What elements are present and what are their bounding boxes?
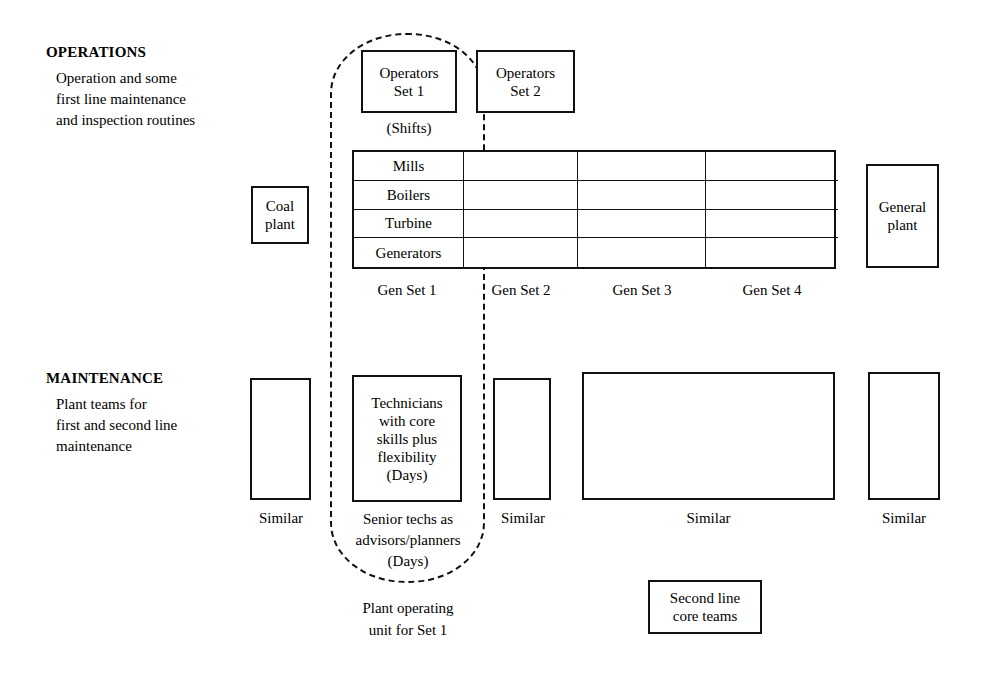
- gen-matrix-cell-r1-c2[interactable]: [464, 152, 578, 181]
- senior-techs-line-1: Senior techs as: [328, 509, 488, 530]
- technicians-line-2: with core: [371, 412, 442, 430]
- gen-matrix-cell-r3-c3[interactable]: [578, 210, 706, 239]
- second-line-core-teams-line-2: core teams: [670, 607, 740, 625]
- technicians-line-4: flexibility: [371, 448, 442, 466]
- plant-operating-unit-line-2: unit for Set 1: [333, 619, 483, 641]
- operations-desc-line-2: first line maintenance: [56, 89, 195, 110]
- maintenance-team-box-2[interactable]: [493, 378, 551, 500]
- operators-set-1-line-1: Operators: [379, 64, 438, 82]
- operators-set-2-line-2: Set 2: [496, 82, 555, 100]
- gen-matrix-cell-r3-c4[interactable]: [706, 210, 838, 239]
- coal-plant-line-1: Coal: [265, 197, 295, 215]
- technicians-box[interactable]: Technicians with core skills plus flexib…: [352, 375, 462, 502]
- gen-matrix-cell-r4-c2[interactable]: [464, 238, 578, 267]
- second-line-core-teams-line-1: Second line: [670, 589, 740, 607]
- operations-desc-line-1: Operation and some: [56, 68, 195, 89]
- senior-techs-caption: Senior techs as advisors/planners (Days): [328, 509, 488, 572]
- operators-set-1-line-2: Set 1: [379, 82, 438, 100]
- plant-operating-unit-line-1: Plant operating: [333, 597, 483, 619]
- gen-matrix-cell-r4-c4[interactable]: [706, 238, 838, 267]
- operations-desc-line-3: and inspection routines: [56, 110, 195, 131]
- maintenance-team-box-4[interactable]: [868, 372, 940, 500]
- maintenance-desc-line-1: Plant teams for: [56, 394, 177, 415]
- maintenance-desc-line-2: first and second line: [56, 415, 177, 436]
- gen-set-4-label: Gen Set 4: [706, 280, 838, 300]
- second-line-core-teams-box[interactable]: Second line core teams: [648, 580, 762, 634]
- gen-set-1-label: Gen Set 1: [352, 280, 462, 300]
- general-plant-line-2: plant: [879, 216, 926, 234]
- general-plant-box[interactable]: General plant: [866, 164, 939, 268]
- technicians-line-1: Technicians: [371, 394, 442, 412]
- diagram-canvas: OPERATIONS Operation and some first line…: [0, 0, 985, 675]
- gen-matrix-cell-r1-c3[interactable]: [578, 152, 706, 181]
- general-plant-line-1: General: [879, 198, 926, 216]
- gen-matrix-cell-r2-c4[interactable]: [706, 181, 838, 210]
- gen-set-3-label: Gen Set 3: [578, 280, 706, 300]
- gen-set-2-label: Gen Set 2: [464, 280, 578, 300]
- gen-matrix-row-label-3[interactable]: Turbine: [354, 210, 464, 239]
- maintenance-similar-label-3: Similar: [582, 508, 835, 528]
- coal-plant-line-2: plant: [265, 215, 295, 233]
- senior-techs-line-3: (Days): [328, 551, 488, 572]
- maintenance-team-box-1[interactable]: [250, 378, 311, 500]
- senior-techs-line-2: advisors/planners: [328, 530, 488, 551]
- maintenance-section-description: Plant teams for first and second line ma…: [56, 394, 177, 457]
- maintenance-similar-label-1: Similar: [240, 508, 322, 528]
- gen-set-matrix: MillsBoilersTurbineGenerators: [352, 150, 836, 269]
- technicians-line-5: (Days): [371, 466, 442, 484]
- gen-matrix-cell-r3-c2[interactable]: [464, 210, 578, 239]
- shifts-caption: (Shifts): [361, 118, 457, 138]
- maintenance-team-box-3[interactable]: [582, 372, 835, 500]
- maintenance-similar-label-2: Similar: [482, 508, 564, 528]
- maintenance-section-heading: MAINTENANCE: [46, 370, 163, 387]
- operations-section-description: Operation and some first line maintenanc…: [56, 68, 195, 131]
- maintenance-similar-label-4: Similar: [868, 508, 940, 528]
- gen-matrix-cell-r4-c3[interactable]: [578, 238, 706, 267]
- maintenance-desc-line-3: maintenance: [56, 436, 177, 457]
- technicians-line-3: skills plus: [371, 430, 442, 448]
- gen-matrix-cell-r2-c3[interactable]: [578, 181, 706, 210]
- gen-matrix-row-label-2[interactable]: Boilers: [354, 181, 464, 210]
- coal-plant-box[interactable]: Coal plant: [251, 186, 309, 244]
- gen-matrix-cell-r1-c4[interactable]: [706, 152, 838, 181]
- operators-set-2-line-1: Operators: [496, 64, 555, 82]
- operators-set-1-box[interactable]: Operators Set 1: [361, 50, 457, 113]
- plant-operating-unit-caption: Plant operating unit for Set 1: [333, 597, 483, 641]
- operations-section-heading: OPERATIONS: [46, 44, 146, 61]
- operators-set-2-box[interactable]: Operators Set 2: [476, 50, 575, 113]
- gen-matrix-row-label-1[interactable]: Mills: [354, 152, 464, 181]
- gen-matrix-row-label-4[interactable]: Generators: [354, 238, 464, 267]
- gen-matrix-cell-r2-c2[interactable]: [464, 181, 578, 210]
